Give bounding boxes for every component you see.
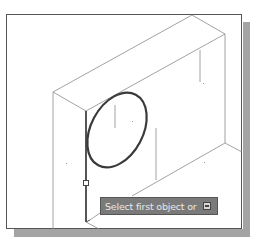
selection-grip[interactable] bbox=[83, 180, 89, 186]
ellipse-shape bbox=[75, 82, 158, 177]
down-arrow-icon[interactable] bbox=[203, 202, 211, 210]
command-prompt-text: Select first object or bbox=[105, 201, 197, 212]
dynamic-input-tooltip: Select first object or bbox=[100, 197, 218, 215]
